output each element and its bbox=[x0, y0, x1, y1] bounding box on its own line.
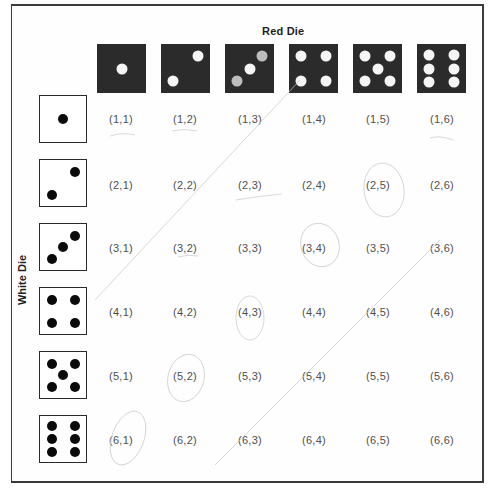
outcome-cell: (6,5) bbox=[366, 434, 390, 446]
white-die-6 bbox=[39, 415, 87, 463]
pip-dot bbox=[47, 421, 57, 431]
pip-dot bbox=[448, 49, 459, 60]
outcome-cell: (5,4) bbox=[302, 370, 326, 382]
outcome-cell: (5,3) bbox=[238, 370, 262, 382]
red-die-3 bbox=[225, 44, 274, 93]
pip-dot bbox=[70, 447, 80, 457]
outcome-cell: (4,5) bbox=[366, 306, 390, 318]
outcome-cell: (6,1) bbox=[109, 434, 133, 446]
outcome-cell: (2,3) bbox=[238, 179, 262, 191]
pip-dot bbox=[384, 75, 395, 86]
outcome-cell: (5,5) bbox=[366, 370, 390, 382]
pip-dot bbox=[372, 63, 383, 74]
outcome-cell: (6,6) bbox=[430, 434, 454, 446]
outcome-cell: (3,2) bbox=[173, 242, 197, 254]
pip-dot bbox=[360, 75, 371, 86]
pip-dot bbox=[232, 75, 243, 86]
white-die-axis-label: White Die bbox=[16, 255, 28, 305]
outcome-cell: (6,3) bbox=[238, 434, 262, 446]
pip-dot bbox=[70, 295, 80, 305]
outcome-cell: (3,3) bbox=[238, 242, 262, 254]
red-die-5 bbox=[353, 44, 402, 93]
pip-dot bbox=[296, 75, 307, 86]
pip-dot bbox=[320, 51, 331, 62]
pip-dot bbox=[448, 77, 459, 88]
pip-dot bbox=[47, 254, 57, 264]
white-die-3 bbox=[39, 223, 87, 271]
pip-dot bbox=[47, 359, 57, 369]
outcome-cell: (1,5) bbox=[366, 113, 390, 125]
pip-dot bbox=[70, 434, 80, 444]
pip-dot bbox=[70, 382, 80, 392]
outcome-cell: (5,2) bbox=[173, 370, 197, 382]
outcome-cell: (3,5) bbox=[366, 242, 390, 254]
pip-dot bbox=[47, 382, 57, 392]
outcome-cell: (2,2) bbox=[173, 179, 197, 191]
outcome-cell: (1,4) bbox=[302, 113, 326, 125]
outcome-cell: (4,6) bbox=[430, 306, 454, 318]
white-die-5 bbox=[39, 351, 87, 399]
red-die-1 bbox=[97, 44, 146, 93]
red-die-axis-label: Red Die bbox=[262, 25, 304, 37]
pip-dot bbox=[70, 421, 80, 431]
white-die-2 bbox=[39, 159, 87, 207]
outcome-cell: (6,4) bbox=[302, 434, 326, 446]
pip-dot bbox=[47, 190, 57, 200]
outcome-cell: (1,6) bbox=[430, 113, 454, 125]
pip-dot bbox=[424, 77, 435, 88]
outcome-cell: (4,2) bbox=[173, 306, 197, 318]
outcome-cell: (4,1) bbox=[109, 306, 133, 318]
outcome-cell: (3,4) bbox=[302, 242, 326, 254]
white-die-1 bbox=[39, 95, 87, 143]
white-die-4 bbox=[39, 287, 87, 335]
outcome-cell: (3,1) bbox=[109, 242, 133, 254]
pip-dot bbox=[116, 63, 127, 74]
outcome-cell: (1,3) bbox=[238, 113, 262, 125]
pip-dot bbox=[448, 63, 459, 74]
red-die-4 bbox=[289, 44, 338, 93]
red-die-2 bbox=[161, 44, 210, 93]
pip-dot bbox=[47, 434, 57, 444]
pip-dot bbox=[256, 51, 267, 62]
outcome-cell: (4,3) bbox=[238, 306, 262, 318]
pip-dot bbox=[70, 167, 80, 177]
pip-dot bbox=[244, 63, 255, 74]
pip-dot bbox=[168, 75, 179, 86]
pip-dot bbox=[424, 63, 435, 74]
outcome-cell: (2,6) bbox=[430, 179, 454, 191]
pip-dot bbox=[47, 447, 57, 457]
outcome-cell: (1,2) bbox=[173, 113, 197, 125]
pip-dot bbox=[70, 231, 80, 241]
pip-dot bbox=[47, 318, 57, 328]
pip-dot bbox=[320, 75, 331, 86]
outcome-cell: (6,2) bbox=[173, 434, 197, 446]
outcome-cell: (5,1) bbox=[109, 370, 133, 382]
pip-dot bbox=[47, 295, 57, 305]
red-die-6 bbox=[417, 44, 466, 93]
pip-dot bbox=[70, 359, 80, 369]
outcome-cell: (2,1) bbox=[109, 179, 133, 191]
pip-dot bbox=[58, 370, 68, 380]
pip-dot bbox=[58, 242, 68, 252]
outcome-cell: (2,4) bbox=[302, 179, 326, 191]
pip-dot bbox=[192, 51, 203, 62]
outcome-cell: (5,6) bbox=[430, 370, 454, 382]
pip-dot bbox=[360, 51, 371, 62]
outcome-cell: (2,5) bbox=[366, 179, 390, 191]
pip-dot bbox=[58, 114, 68, 124]
outcome-cell: (4,4) bbox=[302, 306, 326, 318]
pip-dot bbox=[70, 318, 80, 328]
pip-dot bbox=[384, 51, 395, 62]
pip-dot bbox=[424, 49, 435, 60]
outcome-cell: (1,1) bbox=[109, 113, 133, 125]
outcome-cell: (3,6) bbox=[430, 242, 454, 254]
pip-dot bbox=[296, 51, 307, 62]
